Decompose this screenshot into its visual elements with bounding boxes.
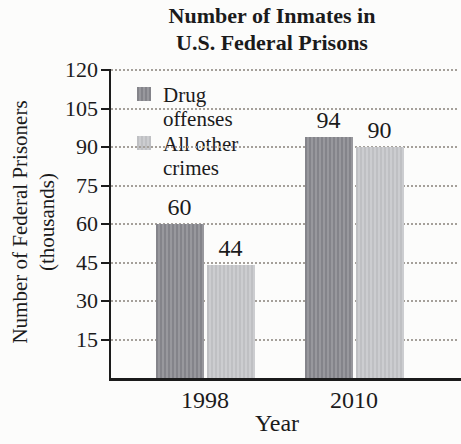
y-tick-mark-15 bbox=[101, 339, 111, 341]
y-tick-label: 75 bbox=[34, 173, 98, 199]
bar-2010-drug-offenses bbox=[305, 137, 353, 378]
legend: Drug offensesAll other crimes bbox=[137, 83, 275, 180]
gridline-120 bbox=[111, 69, 457, 71]
bar-1998-all-other-crimes bbox=[207, 265, 255, 378]
bar-value-label: 44 bbox=[196, 234, 266, 262]
legend-label: All other crimes bbox=[163, 132, 275, 180]
y-axis-title-line1: Number of Federal Prisoners bbox=[7, 57, 34, 387]
bar-2010-all-other-crimes bbox=[356, 147, 404, 378]
bar-value-label: 90 bbox=[345, 116, 415, 144]
chart-title-line1: Number of Inmates in bbox=[90, 2, 454, 29]
legend-item: All other crimes bbox=[137, 132, 275, 180]
y-tick-mark-60 bbox=[101, 223, 111, 225]
bar-chart: Number of Inmates in U.S. Federal Prison… bbox=[0, 0, 461, 444]
plot-area: Drug offensesAll other crimes 1530456075… bbox=[109, 70, 461, 381]
gridline-75 bbox=[111, 185, 457, 187]
y-tick-label: 105 bbox=[34, 96, 98, 122]
chart-title-line2: U.S. Federal Prisons bbox=[90, 29, 454, 56]
y-tick-label: 30 bbox=[34, 288, 98, 314]
y-tick-mark-75 bbox=[101, 185, 111, 187]
y-tick-label: 45 bbox=[34, 250, 98, 276]
chart-title: Number of Inmates in U.S. Federal Prison… bbox=[90, 2, 454, 56]
y-tick-mark-90 bbox=[101, 146, 111, 148]
y-tick-label: 60 bbox=[34, 211, 98, 237]
y-tick-label: 90 bbox=[34, 134, 98, 160]
y-tick-label: 15 bbox=[34, 327, 98, 353]
y-tick-mark-30 bbox=[101, 300, 111, 302]
y-tick-mark-105 bbox=[101, 108, 111, 110]
bar-value-label: 60 bbox=[145, 193, 215, 221]
y-tick-label: 120 bbox=[34, 57, 98, 83]
gridline-90 bbox=[111, 146, 457, 148]
x-axis-title: Year bbox=[157, 410, 397, 437]
gridline-105 bbox=[111, 108, 457, 110]
y-tick-mark-45 bbox=[101, 262, 111, 264]
legend-swatch-dark bbox=[137, 87, 151, 101]
y-tick-mark-120 bbox=[101, 69, 111, 71]
